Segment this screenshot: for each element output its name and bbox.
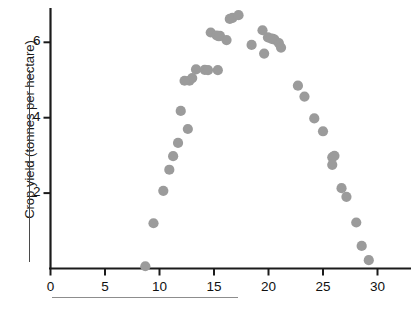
x-tick-label: 25 <box>303 279 343 294</box>
x-tick-label: 15 <box>194 279 234 294</box>
data-point <box>213 65 223 75</box>
data-point <box>276 42 286 52</box>
x-tick-label: 5 <box>85 279 125 294</box>
data-point <box>293 81 303 91</box>
x-tick-label: 10 <box>140 279 180 294</box>
data-point <box>266 33 276 43</box>
data-point <box>176 106 186 116</box>
data-point <box>351 217 361 227</box>
x-tick-label: 20 <box>249 279 289 294</box>
y-tick-label: 2 <box>15 184 41 199</box>
data-point <box>259 49 269 59</box>
data-points-layer <box>140 10 374 271</box>
data-point <box>183 124 193 134</box>
data-point <box>327 160 337 170</box>
data-point <box>214 31 224 41</box>
data-point <box>179 76 189 86</box>
data-point <box>173 138 183 148</box>
data-point <box>164 165 174 175</box>
data-point <box>341 192 351 202</box>
x-tick-label: 0 <box>31 279 71 294</box>
data-point <box>168 151 178 161</box>
data-point <box>364 255 374 265</box>
data-point <box>329 151 339 161</box>
x-axis-label-clipped <box>52 302 252 310</box>
data-point <box>336 183 346 193</box>
x-tick-label: 30 <box>358 279 398 294</box>
data-point <box>233 10 243 20</box>
data-point <box>203 65 213 75</box>
data-point <box>148 218 158 228</box>
y-tick-label: 4 <box>15 109 41 124</box>
data-point <box>140 261 150 271</box>
axis-lines <box>49 8 411 269</box>
data-point <box>357 241 367 251</box>
data-point <box>191 64 201 74</box>
y-tick-label: 6 <box>15 33 41 48</box>
data-point <box>247 40 257 50</box>
data-point <box>318 126 328 136</box>
data-point <box>158 186 168 196</box>
data-point <box>299 91 309 101</box>
data-point <box>309 113 319 123</box>
x-axis-label-rule <box>52 297 238 298</box>
scatter-chart-figure: Crop yield (tonnes per hectare) 246 0510… <box>0 0 415 310</box>
plot-canvas <box>0 0 415 310</box>
